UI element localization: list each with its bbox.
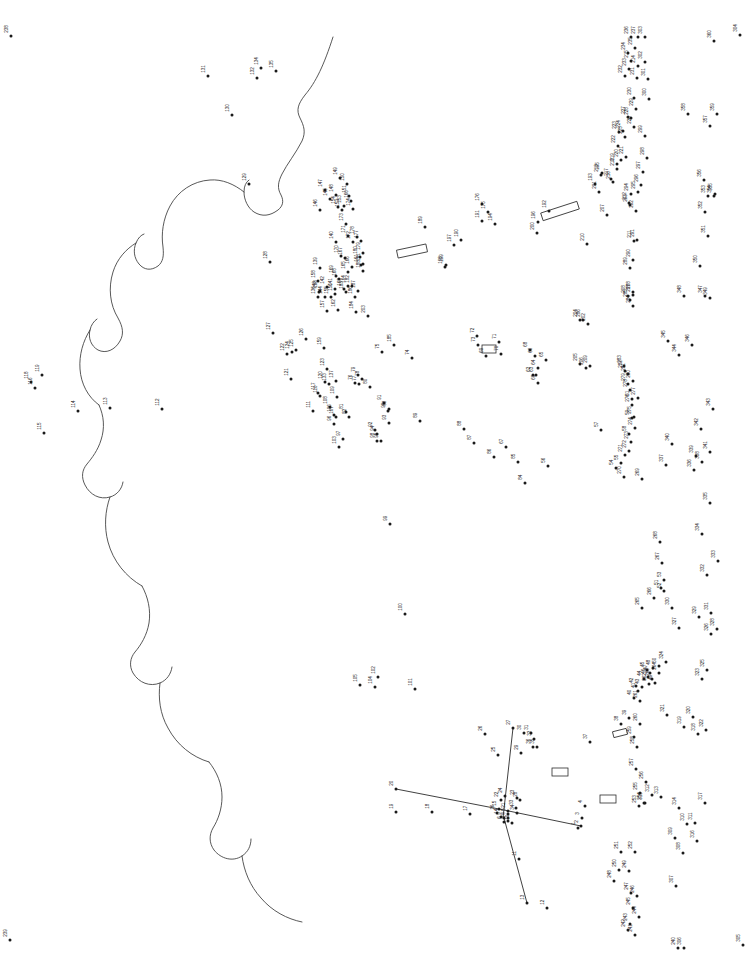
dot-marker <box>537 382 540 385</box>
dot-marker <box>487 211 490 214</box>
dot-marker <box>334 288 337 291</box>
dot-label: 268 <box>653 531 658 539</box>
dot-label: 139 <box>313 257 318 265</box>
dot-marker <box>618 869 621 872</box>
dot-label: 358 <box>681 103 686 111</box>
dot-label: 94 <box>370 425 375 431</box>
dot-marker <box>341 209 344 212</box>
dot-marker <box>577 827 580 830</box>
dot-marker <box>616 163 619 166</box>
dot-marker <box>272 332 275 335</box>
dot-marker <box>704 802 707 805</box>
dot-marker <box>9 939 12 942</box>
dot-label: 193 <box>588 173 593 181</box>
dot-label: 310 <box>680 813 685 821</box>
dot-marker <box>600 429 603 432</box>
dot-marker <box>581 817 584 820</box>
dot-marker <box>319 395 322 398</box>
dot-marker <box>345 291 348 294</box>
dot-label: 4 <box>578 800 583 803</box>
dot-label: 341 <box>703 441 708 449</box>
dot-marker <box>584 805 587 808</box>
dot-marker <box>671 443 674 446</box>
dot-marker <box>700 428 703 431</box>
dot-label: 304 <box>733 24 738 32</box>
dot-marker <box>651 794 654 797</box>
dot-label: 34 <box>510 804 515 810</box>
dot-marker <box>623 365 626 368</box>
dot-label: 225 <box>618 126 623 134</box>
dot-marker <box>460 239 463 242</box>
dot-marker <box>524 482 527 485</box>
dot-label: 194 <box>488 213 493 221</box>
dot-label: 357 <box>703 115 708 123</box>
dot-label: 17 <box>463 805 468 811</box>
dot-marker <box>333 423 336 426</box>
dot-label: 192 <box>542 200 547 208</box>
dot-marker <box>161 408 164 411</box>
dot-marker <box>641 686 644 689</box>
dot-label: 322 <box>699 719 704 727</box>
dot-label: 205 <box>573 353 578 361</box>
dot-marker <box>536 232 539 235</box>
dot-marker <box>627 116 630 119</box>
dot-label: 28 <box>513 791 518 797</box>
dot-marker <box>546 907 549 910</box>
dot-label: 85 <box>511 453 516 459</box>
dot-label: 231 <box>630 67 635 75</box>
dot-label: 307 <box>669 875 674 883</box>
dot-label: 352 <box>698 201 703 209</box>
dot-marker <box>635 768 638 771</box>
dot-label: 289 <box>623 257 628 265</box>
dot-marker <box>686 823 689 826</box>
dot-label: 293 <box>623 194 628 202</box>
dot-marker <box>362 270 365 273</box>
dot-label: 114 <box>71 400 76 408</box>
dot-marker <box>620 159 623 162</box>
dot-marker <box>10 35 13 38</box>
dot-label: 348 <box>677 285 682 293</box>
dot-marker <box>473 442 476 445</box>
dot-label: 53 <box>657 571 662 577</box>
dot-marker <box>326 310 329 313</box>
dot-marker <box>580 825 583 828</box>
dot-label: 25 <box>491 746 496 752</box>
dot-marker <box>355 311 358 314</box>
dot-marker <box>376 440 379 443</box>
dot-label: 199 <box>439 254 444 262</box>
dot-label: 21 <box>501 802 506 808</box>
dot-label: 182 <box>345 275 350 283</box>
dot-label: 234 <box>621 42 626 50</box>
dot-marker <box>419 420 422 423</box>
dot-label: 207 <box>600 204 605 212</box>
dot-marker <box>665 464 668 467</box>
dot-label: 308 <box>676 842 681 850</box>
dot-label: 93 <box>382 414 387 420</box>
dot-label: 321 <box>660 704 665 712</box>
dot-label: 113 <box>103 397 108 405</box>
dot-label: 324 <box>659 651 664 659</box>
dot-marker <box>678 807 681 810</box>
dot-marker <box>624 136 627 139</box>
dot-marker <box>389 523 392 526</box>
dot-label: 237 <box>631 26 636 34</box>
dot-label: 342 <box>694 418 699 426</box>
dot-marker <box>658 665 661 668</box>
dot-label: 267 <box>655 552 660 560</box>
dot-label: 84 <box>518 474 523 480</box>
dot-label: 260 <box>633 713 638 721</box>
dot-marker <box>469 813 472 816</box>
dot-label: 104 <box>368 676 373 684</box>
dot-label: 213 <box>594 164 599 172</box>
dot-marker <box>639 723 642 726</box>
dot-marker <box>362 252 365 255</box>
dot-label: 19 <box>389 803 394 809</box>
dot-marker <box>667 340 670 343</box>
dot-marker <box>682 852 685 855</box>
dot-marker <box>637 191 640 194</box>
dot-label: 313 <box>654 786 659 794</box>
dot-marker <box>713 40 716 43</box>
dot-marker <box>677 947 680 950</box>
dot-marker <box>360 240 363 243</box>
dot-label: 256 <box>639 771 644 779</box>
